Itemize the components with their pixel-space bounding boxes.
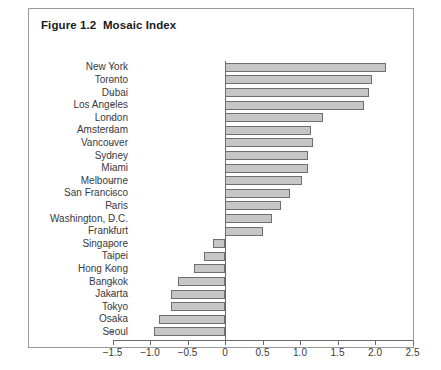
y-axis-tick <box>110 219 114 220</box>
bar-jakarta <box>171 290 225 299</box>
y-axis-tick <box>110 332 114 333</box>
bar-new-york <box>225 63 386 72</box>
figure-title: Figure 1.2 Mosaic Index <box>41 19 176 31</box>
bar-hong-kong <box>194 264 225 273</box>
category-label: Washington, D.C. <box>50 214 128 224</box>
bar-melbourne <box>225 176 302 185</box>
bar-sydney <box>225 151 308 160</box>
category-label: Dubai <box>102 88 128 98</box>
x-axis-tick-label: 1.0 <box>293 347 307 358</box>
y-axis-tick <box>110 118 114 119</box>
y-axis-tick <box>110 130 114 131</box>
bar-london <box>225 113 323 122</box>
x-axis-tick <box>375 341 376 345</box>
category-label: Bangkok <box>89 277 128 287</box>
category-label: Hong Kong <box>78 264 128 274</box>
bar-los-angeles <box>225 101 364 110</box>
bar-taipei <box>204 252 225 261</box>
x-axis-tick-label: 1.5 <box>331 347 345 358</box>
x-axis-tick <box>300 341 301 345</box>
y-axis-tick <box>110 193 114 194</box>
y-axis-tick <box>110 181 114 182</box>
chart-plot-area: New YorkTorontoDubaiLos AngelesLondonAms… <box>29 49 415 349</box>
x-axis-tick <box>225 341 226 345</box>
category-label: Seoul <box>102 327 128 337</box>
figure-container: Figure 1.2 Mosaic Index New YorkTorontoD… <box>28 8 414 348</box>
x-axis-tick-label: −1.0 <box>140 347 160 358</box>
bar-singapore <box>213 239 225 248</box>
bar-toronto <box>225 75 372 84</box>
bar-bangkok <box>178 277 225 286</box>
y-axis-tick <box>110 282 114 283</box>
x-axis-tick <box>113 341 114 345</box>
x-axis-tick <box>263 341 264 345</box>
category-label: Los Angeles <box>74 100 129 110</box>
y-axis-tick <box>110 80 114 81</box>
bar-seoul <box>154 327 225 336</box>
bar-washington-d-c <box>225 214 272 223</box>
x-axis-tick <box>338 341 339 345</box>
bar-frankfurt <box>225 227 263 236</box>
y-axis-tick <box>110 67 114 68</box>
category-label: Vancouver <box>81 138 128 148</box>
category-label: Frankfurt <box>88 226 128 236</box>
y-axis-tick <box>110 319 114 320</box>
category-label: Miami <box>101 163 128 173</box>
bar-miami <box>225 164 308 173</box>
x-axis-tick-label: 0 <box>222 347 228 358</box>
category-label: Taipei <box>102 251 128 261</box>
bar-paris <box>225 201 281 210</box>
x-axis-tick <box>413 341 414 345</box>
bar-vancouver <box>225 138 313 147</box>
x-axis-tick-label: 2.5 <box>406 347 420 358</box>
category-label: Tokyo <box>102 302 128 312</box>
x-axis-tick-label: −0.5 <box>178 347 198 358</box>
category-label: Singapore <box>82 239 128 249</box>
category-label: Amsterdam <box>77 125 128 135</box>
y-axis-tick <box>110 206 114 207</box>
y-axis-tick <box>110 231 114 232</box>
y-axis-tick <box>110 256 114 257</box>
y-axis-tick <box>110 143 114 144</box>
bar-tokyo <box>171 302 225 311</box>
y-axis-tick <box>110 269 114 270</box>
x-axis-tick-label: −1.5 <box>103 347 123 358</box>
y-axis-tick <box>110 307 114 308</box>
y-axis-tick <box>110 93 114 94</box>
y-axis-tick <box>110 105 114 106</box>
y-axis-tick <box>110 156 114 157</box>
y-axis-tick <box>110 168 114 169</box>
x-axis-tick <box>150 341 151 345</box>
bar-amsterdam <box>225 126 311 135</box>
category-label: San Francisco <box>64 188 128 198</box>
category-label: Paris <box>105 201 128 211</box>
bar-dubai <box>225 88 369 97</box>
x-axis-tick <box>188 341 189 345</box>
y-axis-tick <box>110 294 114 295</box>
x-axis-tick-label: 2.0 <box>368 347 382 358</box>
category-label: New York <box>86 62 128 72</box>
x-axis-tick-label: 0.5 <box>256 347 270 358</box>
bar-osaka <box>159 315 225 324</box>
y-axis-tick <box>110 244 114 245</box>
category-label: Melbourne <box>81 176 128 186</box>
bar-san-francisco <box>225 189 290 198</box>
